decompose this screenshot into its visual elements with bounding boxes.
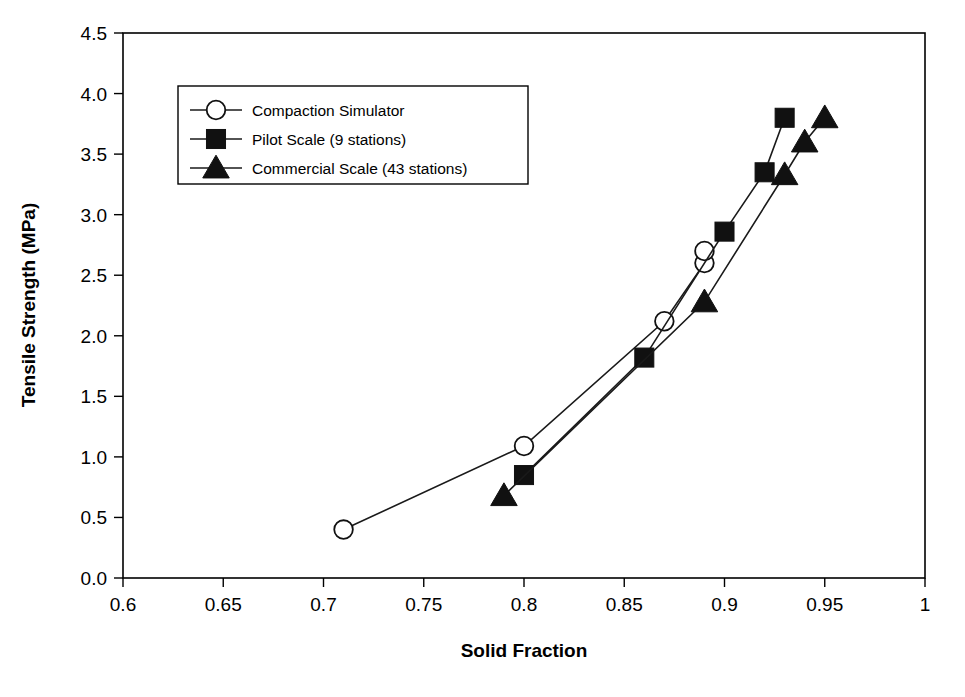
legend-item-1[interactable]: Compaction Simulator <box>190 101 404 120</box>
data-point-filled-triangle <box>811 105 838 128</box>
y-tick-label: 2.5 <box>81 265 107 286</box>
legend-label: Pilot Scale (9 stations) <box>252 131 406 148</box>
y-tick-label: 3.0 <box>81 205 107 226</box>
tensile-strength-vs-solid-fraction-chart: 0.00.51.01.52.02.53.03.54.04.5 0.60.650.… <box>0 0 965 697</box>
series-line <box>344 251 705 530</box>
y-tick-label: 0.5 <box>81 507 107 528</box>
x-axis-tick-labels: 0.60.650.70.750.80.850.90.951 <box>110 594 931 615</box>
data-point-open-circle <box>515 437 534 456</box>
series-line <box>524 118 785 475</box>
y-axis-ticks <box>114 33 123 578</box>
x-tick-label: 0.6 <box>110 594 136 615</box>
x-tick-label: 1 <box>920 594 931 615</box>
figure-container: 0.00.51.01.52.02.53.03.54.04.5 0.60.650.… <box>0 0 965 697</box>
y-tick-label: 3.5 <box>81 144 107 165</box>
y-tick-label: 4.5 <box>81 23 107 44</box>
x-tick-label: 0.7 <box>310 594 336 615</box>
y-tick-label: 1.0 <box>81 447 107 468</box>
x-tick-label: 0.9 <box>711 594 737 615</box>
series-2 <box>514 108 794 484</box>
legend-label: Compaction Simulator <box>252 102 404 119</box>
x-tick-label: 0.95 <box>806 594 843 615</box>
y-axis-tick-labels: 0.00.51.01.52.02.53.03.54.04.5 <box>81 23 107 589</box>
data-point-open-circle <box>334 520 353 539</box>
chart-legend: Compaction SimulatorPilot Scale (9 stati… <box>178 86 528 184</box>
legend-label: Commercial Scale (43 stations) <box>252 160 467 177</box>
x-tick-label: 0.85 <box>606 594 643 615</box>
x-axis-title: Solid Fraction <box>461 640 588 661</box>
y-tick-label: 1.5 <box>81 386 107 407</box>
data-point-filled-square <box>775 108 794 127</box>
series-line <box>504 118 825 496</box>
data-point-open-circle <box>207 101 226 120</box>
series-1 <box>334 242 714 539</box>
legend-item-2[interactable]: Pilot Scale (9 stations) <box>190 129 406 148</box>
x-tick-label: 0.8 <box>511 594 537 615</box>
y-tick-label: 4.0 <box>81 84 107 105</box>
y-tick-label: 0.0 <box>81 568 107 589</box>
data-point-filled-triangle <box>771 162 798 185</box>
series-3 <box>491 105 838 506</box>
y-tick-label: 2.0 <box>81 326 107 347</box>
data-point-filled-square <box>755 163 774 182</box>
x-tick-label: 0.75 <box>405 594 442 615</box>
x-axis-ticks <box>123 578 925 587</box>
data-point-filled-square <box>715 222 734 241</box>
x-tick-label: 0.65 <box>205 594 242 615</box>
data-point-open-circle <box>695 242 714 261</box>
data-point-filled-square <box>635 348 654 367</box>
data-point-filled-triangle <box>791 129 818 152</box>
y-axis-title: Tensile Strength (MPa) <box>18 203 39 407</box>
data-point-filled-triangle <box>691 289 718 312</box>
data-point-filled-square <box>206 129 225 148</box>
